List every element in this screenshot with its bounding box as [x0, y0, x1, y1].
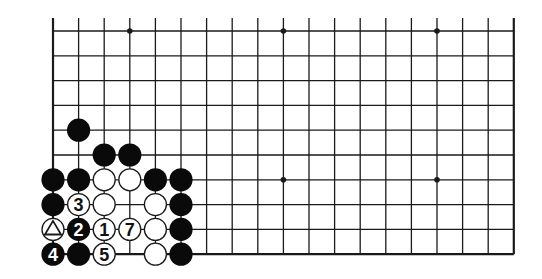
black-stone: 4 — [41, 243, 64, 266]
move-number-label: 5 — [99, 245, 109, 265]
white-stone — [93, 169, 115, 191]
black-stone — [41, 168, 64, 191]
white-stone — [93, 194, 115, 216]
white-stone: 3 — [68, 194, 90, 216]
black-stone: 2 — [67, 218, 90, 241]
white-stone — [42, 218, 64, 240]
go-board: 321745 — [0, 0, 542, 279]
star-point-icon — [434, 28, 440, 34]
black-stone — [169, 168, 192, 191]
stones-layer: 321745 — [41, 119, 192, 266]
black-stone — [169, 218, 192, 241]
black-stone — [41, 193, 64, 216]
star-point-icon — [281, 177, 287, 183]
white-stone: 5 — [93, 243, 115, 265]
move-number-label: 4 — [48, 245, 58, 265]
board-grid — [53, 18, 514, 254]
white-stone: 7 — [119, 218, 141, 240]
white-stone — [119, 169, 141, 191]
black-stone — [169, 243, 192, 266]
black-stone — [67, 168, 90, 191]
black-stone — [67, 243, 90, 266]
move-number-label: 3 — [74, 195, 84, 215]
white-stone — [144, 243, 166, 265]
black-stone — [67, 119, 90, 142]
black-stone — [93, 143, 116, 166]
white-stone — [144, 218, 166, 240]
move-number-label: 1 — [99, 220, 109, 240]
move-number-label: 7 — [125, 220, 135, 240]
black-stone — [144, 168, 167, 191]
star-point-icon — [127, 28, 133, 34]
white-stone: 1 — [93, 218, 115, 240]
black-stone — [118, 143, 141, 166]
move-number-label: 2 — [74, 220, 84, 240]
star-point-icon — [434, 177, 440, 183]
white-stone — [144, 194, 166, 216]
star-point-icon — [281, 28, 287, 34]
black-stone — [169, 193, 192, 216]
